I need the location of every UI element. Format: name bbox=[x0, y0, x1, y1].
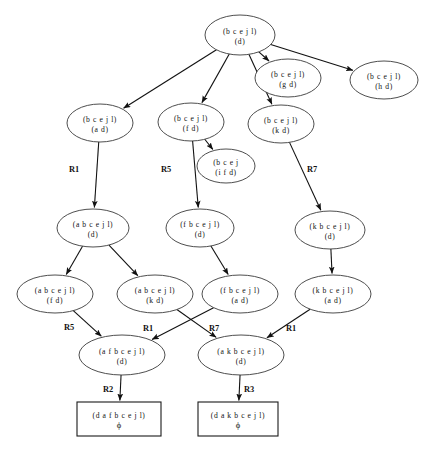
node-label-goal: (g d) bbox=[279, 80, 297, 89]
graph-edge bbox=[193, 141, 199, 208]
graph-node[interactable]: (b c e j l)(f d) bbox=[158, 103, 224, 141]
graph-edge bbox=[211, 246, 228, 275]
graph-node[interactable]: (f b c e j l)(d) bbox=[166, 209, 234, 247]
node-label-goal: (f d) bbox=[47, 296, 63, 305]
terminal-node[interactable]: (d a f b c e j l)ϕ bbox=[77, 402, 161, 436]
graph-node[interactable]: (b c e j l)(g d) bbox=[255, 59, 321, 97]
graph-node[interactable]: (b c e j l)(k d) bbox=[248, 105, 314, 143]
node-label-goal: (d) bbox=[117, 357, 128, 366]
graph-edge bbox=[94, 142, 98, 208]
graph-edge bbox=[202, 54, 229, 103]
nodes-layer: (b c e j l)(d)(b c e j l)(g d)(b c e j l… bbox=[17, 15, 418, 436]
graph-node[interactable]: (f b c e j l)(a d) bbox=[202, 275, 278, 313]
graph-edge bbox=[331, 249, 332, 274]
graph-edge bbox=[109, 245, 138, 276]
node-label-goal: (h d) bbox=[375, 82, 393, 91]
graph-edge bbox=[239, 375, 240, 401]
terminal-node[interactable]: (d a k b c e j l)ϕ bbox=[198, 402, 278, 436]
graph-node[interactable]: (a f b c e j l)(d) bbox=[79, 335, 165, 375]
graph-node[interactable]: (b c e j l)(a d) bbox=[67, 104, 133, 142]
graph-edge bbox=[124, 50, 217, 108]
graph-node[interactable]: (a b c e j l)(f d) bbox=[17, 275, 93, 313]
graph-edge bbox=[205, 139, 213, 149]
node-label-clause: (b c e j l) bbox=[223, 27, 257, 36]
edge-rule-label: R3 bbox=[244, 385, 254, 394]
node-label-goal: (f d) bbox=[183, 124, 199, 133]
node-label-goal: (d) bbox=[195, 230, 206, 239]
node-label-clause: (a b c e j l) bbox=[73, 220, 113, 229]
graph-node[interactable]: (b c e j(i f d) bbox=[197, 149, 255, 183]
node-label-clause: (a b c e j l) bbox=[135, 286, 175, 295]
node-label-goal: (d) bbox=[88, 230, 99, 239]
node-label-goal: (a d) bbox=[91, 125, 108, 134]
edge-rule-label: R1 bbox=[143, 324, 153, 333]
node-label-clause: (b c e j bbox=[213, 158, 239, 167]
graph-node[interactable]: (b c e j l)(d) bbox=[205, 15, 275, 55]
graph-edge bbox=[289, 142, 320, 210]
graph-edge bbox=[259, 52, 269, 61]
edge-rule-label: R7 bbox=[209, 324, 219, 333]
node-label-clause: (b c e j l) bbox=[271, 70, 305, 79]
node-label-clause: (a b c e j l) bbox=[35, 286, 75, 295]
graph-node[interactable]: (k b c e j l)(a d) bbox=[295, 275, 371, 313]
node-label-clause: (b c e j l) bbox=[367, 72, 401, 81]
node-label-clause: (k b c e j l) bbox=[310, 222, 351, 231]
graph-edge bbox=[66, 246, 82, 274]
edge-rule-label: R1 bbox=[286, 324, 296, 333]
node-label-clause: (d a f b c e j l) bbox=[93, 411, 146, 420]
node-label-goal: (a d) bbox=[231, 296, 248, 305]
node-label-clause: (b c e j l) bbox=[83, 115, 117, 124]
graph-node[interactable]: (a b c e j l)(d) bbox=[57, 209, 129, 247]
graph-node[interactable]: (a b c e j l)(k d) bbox=[117, 275, 193, 313]
edge-rule-label: R7 bbox=[307, 165, 317, 174]
node-label-clause: (d a k b c e j l) bbox=[211, 411, 265, 420]
edge-rule-label: R1 bbox=[69, 165, 79, 174]
node-label-clause: (f b c e j l) bbox=[220, 286, 260, 295]
node-label-clause: (a k b c e j l) bbox=[217, 347, 264, 356]
node-label-empty-clause: ϕ bbox=[117, 420, 122, 430]
node-label-goal: (k d) bbox=[146, 296, 164, 305]
node-label-goal: (a d) bbox=[324, 296, 341, 305]
node-label-goal: (d) bbox=[236, 357, 247, 366]
node-label-clause: (k b c e j l) bbox=[313, 286, 354, 295]
graph-node[interactable]: (a k b c e j l)(d) bbox=[198, 335, 284, 375]
graph-svg: (b c e j l)(d)(b c e j l)(g d)(b c e j l… bbox=[0, 0, 430, 459]
graph-node[interactable]: (k b c e j l)(d) bbox=[295, 211, 365, 249]
node-label-empty-clause: ϕ bbox=[236, 420, 241, 430]
node-label-goal: (i f d) bbox=[215, 168, 237, 177]
edge-rule-label: R5 bbox=[64, 323, 74, 332]
graph-edge bbox=[73, 311, 101, 337]
node-label-clause: (b c e j l) bbox=[264, 116, 298, 125]
node-label-goal: (d) bbox=[235, 37, 246, 46]
node-label-goal: (d) bbox=[325, 232, 336, 241]
edge-rule-label: R2 bbox=[103, 385, 113, 394]
edge-rule-label: R5 bbox=[161, 165, 171, 174]
node-label-goal: (k d) bbox=[272, 126, 290, 135]
node-label-clause: (f b c e j l) bbox=[180, 220, 220, 229]
node-label-clause: (a f b c e j l) bbox=[99, 347, 145, 356]
graph-node[interactable]: (b c e j l)(h d) bbox=[350, 61, 418, 99]
diagram-canvas: (b c e j l)(d)(b c e j l)(g d)(b c e j l… bbox=[0, 0, 430, 459]
node-label-clause: (b c e j l) bbox=[174, 114, 208, 123]
graph-edge bbox=[120, 375, 121, 401]
